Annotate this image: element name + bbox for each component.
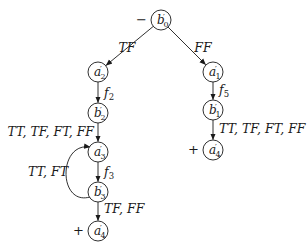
node-subscript: 1 <box>216 110 221 119</box>
decision-tree-diagram: TFFFf2f5TT, TF, FT, FFTT, TF, FT, FFf3TT… <box>0 0 308 247</box>
edge-label: TF <box>118 40 136 55</box>
node-sign: + <box>188 142 199 157</box>
node-subscript: 2 <box>101 72 106 81</box>
edge-label: FF <box>193 40 213 55</box>
node-b3: b′3 <box>88 182 108 202</box>
node-a2: a′2 <box>88 62 108 82</box>
node-a4l: a′4+ <box>73 221 108 241</box>
edge-label: TT, TF, FT, FF <box>219 121 307 136</box>
node-a3: a′3 <box>88 142 108 162</box>
node-sign: − <box>136 12 147 27</box>
node-b0: b′0− <box>136 10 171 30</box>
node-b2: b′2 <box>88 103 108 123</box>
node-subscript: 0 <box>164 20 169 29</box>
node-sign: + <box>73 223 84 238</box>
node-subscript: 3 <box>101 192 106 201</box>
edge-label: TF, FF <box>104 201 146 216</box>
loop-edge-b3-a3 <box>66 147 90 198</box>
node-subscript: 1 <box>216 72 221 81</box>
edge-label: f2 <box>103 85 114 102</box>
node-b1: b′1 <box>203 100 223 120</box>
node-a4r: a′4+ <box>188 140 223 160</box>
edge-label: TT, TF, FT, FF <box>8 124 96 139</box>
edge-label: f5 <box>218 82 229 99</box>
node-subscript: 2 <box>101 113 106 122</box>
edge-label: f3 <box>103 164 114 181</box>
node-subscript: 4 <box>101 231 106 240</box>
node-subscript: 3 <box>101 152 106 161</box>
node-subscript: 4 <box>216 150 221 159</box>
edge-label: TT, FT <box>28 164 70 179</box>
node-a1: a′1 <box>203 62 223 82</box>
